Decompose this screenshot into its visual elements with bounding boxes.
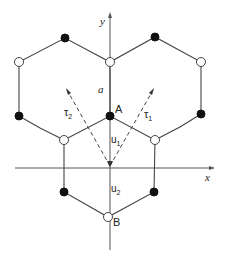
atom-B-label: B <box>113 216 120 228</box>
tau1-vector <box>110 90 153 166</box>
tau2-label: τ2 <box>64 106 72 120</box>
tau2-arrowhead <box>66 88 71 95</box>
atom-A-label: A <box>115 103 123 115</box>
open-atom <box>15 58 24 67</box>
x-axis-arrowhead <box>209 166 215 170</box>
open-atom <box>197 58 206 67</box>
u2-label: u2 <box>111 183 121 196</box>
filled-atom <box>61 34 69 42</box>
filled-atom <box>197 110 205 118</box>
lattice-constant-label: a <box>98 83 104 95</box>
tau1-arrowhead <box>149 88 154 95</box>
open-atom <box>60 136 69 145</box>
x-axis-label: x <box>204 171 210 183</box>
u1-arrowhead <box>107 161 113 167</box>
filled-atom <box>150 188 158 196</box>
y-axis-arrowhead <box>108 12 112 18</box>
tau1-label: τ1 <box>144 108 152 122</box>
filled-atom <box>15 112 23 120</box>
honeycomb-lattice-diagram: y x a A B u1 u2 τ1 τ2 <box>0 0 225 256</box>
filled-atom <box>60 188 68 196</box>
open-atom <box>106 58 115 67</box>
filled-atom <box>151 33 159 41</box>
atom-A <box>106 112 114 120</box>
y-axis-label: y <box>99 15 105 27</box>
u1-label: u1 <box>111 134 121 147</box>
atom-B <box>104 213 113 222</box>
open-atom <box>151 136 160 145</box>
tau2-vector <box>67 90 110 166</box>
